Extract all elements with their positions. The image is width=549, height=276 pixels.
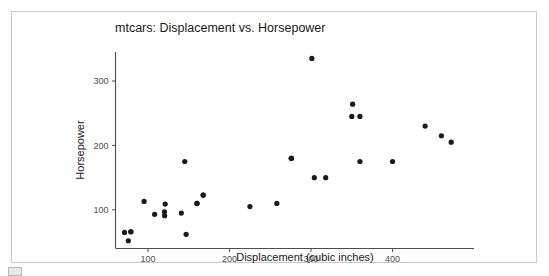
data-point bbox=[163, 201, 168, 206]
data-point bbox=[182, 159, 187, 164]
x-tick-label: 100 bbox=[141, 254, 156, 264]
y-axis-ticks: 100200300 bbox=[93, 76, 115, 215]
data-point bbox=[126, 238, 131, 243]
y-tick-label: 100 bbox=[93, 205, 108, 215]
data-point bbox=[357, 159, 362, 164]
bottom-chrome-strip bbox=[8, 267, 158, 276]
chrome-chip-icon bbox=[8, 267, 22, 276]
data-point bbox=[312, 175, 317, 180]
data-point bbox=[152, 212, 157, 217]
data-point bbox=[309, 56, 314, 61]
data-point bbox=[350, 102, 355, 107]
data-point bbox=[162, 213, 167, 218]
data-point bbox=[349, 114, 354, 119]
data-point bbox=[179, 210, 184, 215]
data-point bbox=[122, 230, 127, 235]
page-title: mtcars: Displacement vs. Horsepower bbox=[115, 21, 325, 35]
data-point bbox=[357, 114, 362, 119]
data-point bbox=[439, 133, 444, 138]
y-tick-label: 200 bbox=[93, 141, 108, 151]
x-tick-label: 200 bbox=[222, 254, 237, 264]
x-tick-label: 400 bbox=[385, 254, 400, 264]
data-point bbox=[423, 123, 428, 128]
scatter-plot-panel: mtcars: Displacement vs. Horsepower 1002… bbox=[12, 12, 538, 264]
data-point bbox=[247, 204, 252, 209]
data-point bbox=[323, 175, 328, 180]
data-point bbox=[274, 201, 279, 206]
y-axis-title: Horsepower bbox=[74, 120, 86, 180]
scatter-plot-svg: mtcars: Displacement vs. Horsepower 1002… bbox=[12, 12, 538, 264]
x-axis-title: Displacement (cubic inches) bbox=[236, 251, 374, 263]
data-point bbox=[194, 201, 199, 206]
data-point bbox=[289, 156, 294, 161]
data-point bbox=[184, 232, 189, 237]
data-point bbox=[201, 192, 206, 197]
data-point bbox=[128, 229, 133, 234]
y-tick-label: 300 bbox=[93, 76, 108, 86]
data-point bbox=[141, 199, 146, 204]
data-points-layer bbox=[122, 56, 454, 244]
screenshot-root: mtcars: Displacement vs. Horsepower 1002… bbox=[0, 0, 549, 276]
figure-frame: mtcars: Displacement vs. Horsepower 1002… bbox=[11, 11, 537, 263]
data-point bbox=[449, 140, 454, 145]
data-point bbox=[390, 159, 395, 164]
